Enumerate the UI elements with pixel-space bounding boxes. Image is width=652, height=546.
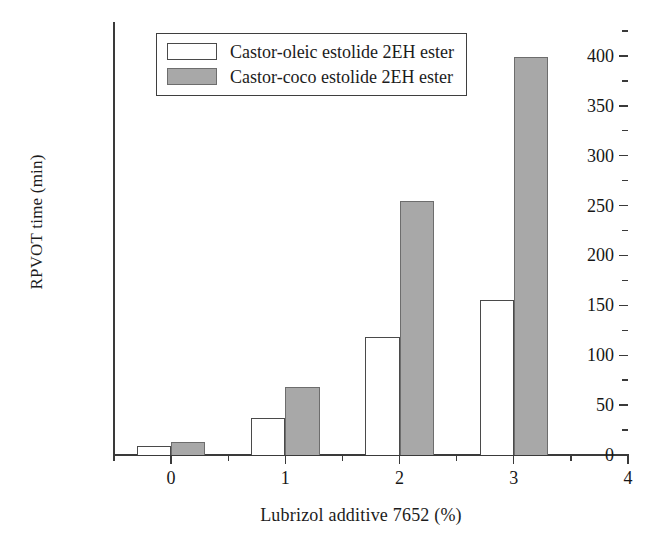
bar-chart: RPVOT time (min) Lubrizol additive 7652 … <box>0 0 652 546</box>
legend-label: Castor-coco estolide 2EH ester <box>230 68 453 86</box>
legend-swatch-filled-icon <box>167 68 217 85</box>
y-axis-tick <box>622 130 628 131</box>
x-axis-tick-label: 2 <box>395 469 404 487</box>
y-axis-tick-label: 50 <box>596 396 614 414</box>
bar <box>171 442 205 455</box>
legend-item: Castor-coco estolide 2EH ester <box>167 64 454 89</box>
x-axis-title: Lubrizol additive 7652 (%) <box>96 505 626 526</box>
x-axis-tick <box>285 455 286 464</box>
y-axis-tick <box>622 230 628 231</box>
y-axis-tick <box>619 155 628 156</box>
y-axis-tick <box>622 280 628 281</box>
y-axis-tick <box>622 30 628 31</box>
x-axis-tick <box>570 455 571 461</box>
legend-item: Castor-oleic estolide 2EH ester <box>167 39 454 64</box>
y-axis-tick-label: 0 <box>605 446 614 464</box>
legend: Castor-oleic estolide 2EH ester Castor-c… <box>156 33 467 96</box>
x-axis-tick-label: 3 <box>509 469 518 487</box>
y-axis-tick-label: 100 <box>587 346 614 364</box>
x-axis-tick-label: 0 <box>167 469 176 487</box>
y-axis-tick <box>619 355 628 356</box>
legend-label: Castor-oleic estolide 2EH ester <box>230 43 454 61</box>
bar <box>400 201 434 455</box>
x-axis-tick-label: 4 <box>624 469 633 487</box>
y-axis-title: RPVOT time (min) <box>27 97 47 347</box>
y-axis-tick <box>622 379 628 380</box>
y-axis-tick <box>619 55 628 56</box>
y-axis-tick-label: 350 <box>587 97 614 115</box>
y-axis-tick-label: 400 <box>587 47 614 65</box>
x-axis-tick <box>456 455 457 461</box>
y-axis-tick <box>619 105 628 106</box>
x-axis-tick <box>342 455 343 461</box>
y-axis-tick-label: 200 <box>587 246 614 264</box>
bar <box>514 57 548 455</box>
x-axis-tick <box>170 455 171 464</box>
bar <box>285 387 319 455</box>
y-axis-tick <box>622 330 628 331</box>
y-axis-tick <box>622 180 628 181</box>
x-axis-tick <box>627 455 628 464</box>
x-axis-tick-label: 1 <box>281 469 290 487</box>
bar <box>137 446 171 455</box>
y-axis-tick-label: 300 <box>587 147 614 165</box>
y-axis-tick <box>619 205 628 206</box>
bar <box>251 418 285 455</box>
y-axis-tick <box>619 255 628 256</box>
y-axis-tick <box>619 305 628 306</box>
bar <box>480 300 514 455</box>
x-axis-tick <box>399 455 400 464</box>
y-axis-tick <box>622 429 628 430</box>
x-axis-tick <box>113 455 114 461</box>
y-axis-tick-label: 150 <box>587 296 614 314</box>
y-axis-tick-label: 250 <box>587 197 614 215</box>
x-axis-tick <box>513 455 514 464</box>
y-axis-tick <box>622 80 628 81</box>
legend-swatch-open-icon <box>167 43 217 60</box>
x-axis-tick <box>228 455 229 461</box>
y-axis-tick <box>619 404 628 405</box>
bar <box>365 337 399 455</box>
